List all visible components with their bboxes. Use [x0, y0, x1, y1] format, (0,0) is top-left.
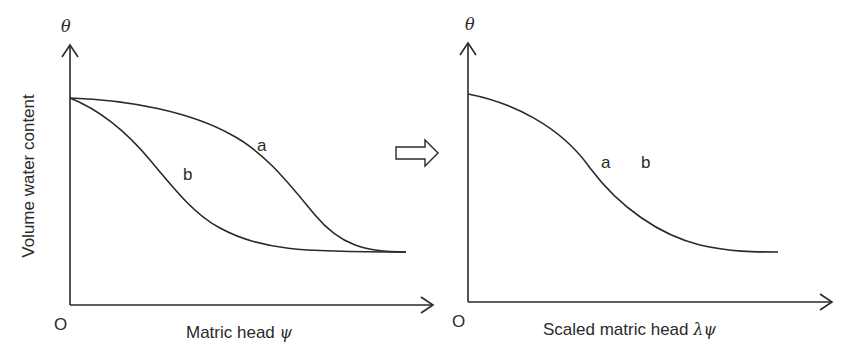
- scaled-curve-label-b: b: [641, 153, 650, 172]
- left-x-axis-label: Matric head ψ: [186, 323, 293, 342]
- scaling-diagram: θ a b O Matric head ψ Volume water conte…: [0, 0, 855, 354]
- curve-a: [70, 98, 406, 252]
- curve-b: [70, 98, 406, 252]
- scaled-curve: [468, 94, 778, 252]
- hollow-right-arrow-icon: [396, 140, 438, 166]
- scaled-curve-label-a: a: [601, 153, 611, 172]
- curve-b-label: b: [183, 165, 192, 184]
- right-theta-symbol: θ: [465, 15, 475, 34]
- right-panel: θ a b O Scaled matric head λψ: [452, 15, 832, 339]
- right-origin-label: O: [452, 312, 465, 331]
- left-theta-symbol: θ: [61, 17, 71, 36]
- left-panel: θ a b O Matric head ψ Volume water conte…: [19, 17, 433, 342]
- left-y-axis-label: Volume water content: [19, 94, 38, 258]
- left-origin-label: O: [54, 315, 67, 334]
- curve-a-label: a: [257, 136, 267, 155]
- right-x-axis-label: Scaled matric head λψ: [543, 320, 716, 339]
